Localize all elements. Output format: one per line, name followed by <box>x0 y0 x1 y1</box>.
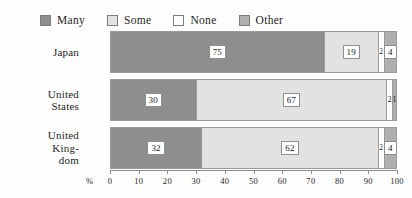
bar-segment-many[interactable]: 32 <box>111 128 202 168</box>
x-axis-tick <box>225 170 226 174</box>
bar-segment-value: 4 <box>384 45 397 59</box>
x-axis-unit-label: % <box>86 176 93 186</box>
bar-segment-value: 75 <box>209 45 226 59</box>
bar-segment-value: 30 <box>145 93 162 107</box>
x-axis-tick <box>282 170 283 174</box>
x-axis-tick <box>167 170 168 174</box>
row-label-line: United <box>0 88 79 101</box>
bar-segment-value: 32 <box>147 141 164 155</box>
bar-segment-many[interactable]: 30 <box>111 80 197 120</box>
bar-segment-many[interactable]: 75 <box>111 32 325 72</box>
x-axis-tick-label: 80 <box>335 176 344 186</box>
x-axis-tick <box>196 170 197 174</box>
legend-item-label: None <box>190 14 216 26</box>
legend-item-label: Many <box>57 14 85 26</box>
x-axis-tick <box>311 170 312 174</box>
row-label-japan: Japan <box>0 46 79 59</box>
legend-swatch-icon <box>173 15 184 26</box>
plot-area: 751924Japan306721UnitedStates326224Unite… <box>110 31 397 169</box>
bar-segment-other[interactable]: 4 <box>385 32 396 72</box>
row-label-line: King- <box>0 142 79 155</box>
legend-swatch-icon <box>239 15 250 26</box>
x-axis-tick-label: 40 <box>220 176 229 186</box>
row-label-line: Japan <box>0 46 79 59</box>
bar-row: 306721 <box>110 79 397 121</box>
x-axis-tick-label: 100 <box>390 176 404 186</box>
legend-item-none[interactable]: None <box>173 14 216 26</box>
x-axis-tick <box>254 170 255 174</box>
bar-segment-value: 62 <box>281 141 298 155</box>
bar-segment-value: 4 <box>384 141 397 155</box>
bar-segment-value: 19 <box>343 45 360 59</box>
row-label-united-kingdom: UnitedKing-dom <box>0 129 79 167</box>
legend-item-label: Some <box>124 14 151 26</box>
bar-segment-some[interactable]: 62 <box>202 128 379 168</box>
legend-swatch-icon <box>40 15 51 26</box>
row-label-united-states: UnitedStates <box>0 88 79 113</box>
x-axis-tick <box>340 170 341 174</box>
bar-segment-value: 67 <box>283 93 300 107</box>
x-axis-tick <box>110 170 111 174</box>
row-label-line: States <box>0 100 79 113</box>
bar-row: 751924 <box>110 31 397 73</box>
x-axis-tick-label: 20 <box>163 176 172 186</box>
legend-item-some[interactable]: Some <box>107 14 151 26</box>
bar-segment-other[interactable]: 4 <box>385 128 396 168</box>
bar-row: 326224 <box>110 127 397 169</box>
legend-item-many[interactable]: Many <box>40 14 85 26</box>
bar-segment-some[interactable]: 67 <box>197 80 388 120</box>
bar-segment-value: 1 <box>393 96 397 104</box>
legend-item-label: Other <box>256 14 284 26</box>
bar-segment-other[interactable]: 1 <box>393 80 396 120</box>
row-label-line: dom <box>0 154 79 167</box>
x-axis-tick <box>368 170 369 174</box>
legend-item-other[interactable]: Other <box>239 14 284 26</box>
figure: ManySomeNoneOther 751924Japan306721Unite… <box>0 0 412 198</box>
x-axis-tick-label: 60 <box>278 176 287 186</box>
x-axis-tick-label: 50 <box>249 176 258 186</box>
bar-segment-value: 2 <box>388 96 392 104</box>
bar-segment-value: 2 <box>379 48 383 56</box>
x-axis-tick-label: 10 <box>134 176 143 186</box>
bar-segment-value: 2 <box>379 144 383 152</box>
row-label-line: United <box>0 129 79 142</box>
x-axis-tick-label: 70 <box>306 176 315 186</box>
legend-swatch-icon <box>107 15 118 26</box>
x-axis-tick-label: 0 <box>108 176 113 186</box>
bar-segment-some[interactable]: 19 <box>325 32 379 72</box>
x-axis-tick <box>397 170 398 174</box>
x-axis-tick <box>139 170 140 174</box>
x-axis-tick-label: 90 <box>364 176 373 186</box>
x-axis-tick-label: 30 <box>192 176 201 186</box>
chart-legend: ManySomeNoneOther <box>40 11 283 29</box>
